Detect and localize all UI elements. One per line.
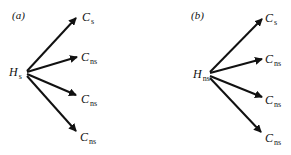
target-symbol: C	[265, 52, 273, 66]
target-symbol: C	[80, 130, 88, 144]
target-symbol: C	[81, 50, 89, 64]
source-subscript: s	[19, 72, 22, 81]
panel-a-target-2: Cns	[81, 51, 97, 68]
panel-a-arrows	[27, 18, 77, 131]
target-subscript: s	[274, 18, 277, 27]
target-symbol: C	[81, 92, 89, 106]
target-subscript: ns	[274, 100, 281, 109]
target-symbol: C	[265, 131, 273, 145]
source-symbol: H	[193, 67, 202, 81]
panel-b-source-label: Hns	[193, 68, 210, 85]
target-subscript: s	[91, 17, 94, 26]
target-subscript: ns	[274, 59, 281, 68]
panel-a-target-1: Cs	[82, 11, 94, 28]
panel-a-target-3: Cns	[81, 93, 97, 110]
target-subscript: ns	[89, 137, 96, 146]
source-subscript: ns	[203, 74, 210, 83]
panel-a-source-label: Hs	[9, 66, 22, 83]
target-symbol: C	[82, 10, 90, 24]
target-symbol: C	[265, 93, 273, 107]
arrow-b-1	[210, 19, 262, 72]
panel-b-target-4: Cns	[265, 132, 281, 149]
target-subscript: ns	[90, 99, 97, 108]
arrow-a-2	[27, 57, 77, 72]
panel-b-target-2: Cns	[265, 53, 281, 70]
target-subscript: ns	[90, 57, 97, 66]
panel-a-tag: (a)	[12, 10, 25, 21]
panel-b-arrows	[210, 19, 262, 132]
panel-b-target-3: Cns	[265, 94, 281, 111]
source-symbol: H	[9, 65, 18, 79]
arrow-a-1	[27, 18, 76, 71]
arrows-layer	[0, 0, 291, 155]
panel-a-target-4: Cns	[80, 131, 96, 148]
panel-b-target-1: Cs	[265, 12, 277, 29]
target-symbol: C	[265, 11, 273, 25]
panel-b-tag: (b)	[191, 10, 204, 21]
target-subscript: ns	[274, 138, 281, 147]
arrow-b-2	[210, 59, 262, 73]
